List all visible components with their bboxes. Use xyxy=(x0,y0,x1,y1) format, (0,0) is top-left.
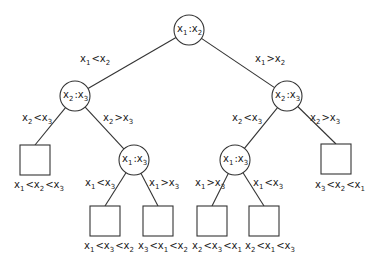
edge-label: x1 <x3 xyxy=(253,177,284,191)
edge-label: x1 >x2 xyxy=(255,53,286,67)
leaf-leaf2: x1 <x3 <x2 xyxy=(84,206,135,254)
leaf-box xyxy=(90,206,120,236)
edge-label: x2 <x3 xyxy=(22,112,53,126)
comparison-node-RL: x1 :x3 xyxy=(220,145,250,175)
leaf-label: x3 <x2 <x1 xyxy=(315,179,366,193)
edge-label: x1 <x3 xyxy=(85,177,116,191)
leaf-leaf5: x2 <x1 <x3 xyxy=(245,206,296,254)
leaf-box xyxy=(249,206,279,236)
edge-label: x2 >x3 xyxy=(103,112,134,126)
leaf-box xyxy=(20,145,50,175)
leaf-label: x2 <x1 <x3 xyxy=(245,240,296,254)
edge-label: x1 >x3 xyxy=(195,177,226,191)
leaf-box xyxy=(197,206,227,236)
leaf-nodes: x1 <x2 <x3 x1 <x3 <x2 x3 <x1 <x2 x2 <x3 … xyxy=(14,144,366,254)
leaf-label: x2 <x3 <x1 xyxy=(192,240,243,254)
comparison-node-L: x2 :x3 xyxy=(60,81,90,111)
leaf-label: x1 <x3 <x2 xyxy=(84,240,135,254)
edge-label: x2 >x3 xyxy=(310,112,341,126)
comparison-nodes: x1 :x2 x2 :x3 x2 :x3 x1 :x3 x1 :x3 xyxy=(60,15,302,175)
comparison-node-R: x2 :x3 xyxy=(272,81,302,111)
leaf-box xyxy=(143,206,173,236)
leaf-box xyxy=(321,144,351,174)
comparison-node-LR: x1 :x3 xyxy=(119,145,149,175)
decision-tree-diagram: x1 :x2 x2 :x3 x2 :x3 x1 :x3 x1 :x3 x1 <x… xyxy=(0,0,368,268)
labels: x1 <x2 x1 >x2 x2 <x3 x2 >x3 x2 <x3 x2 >x… xyxy=(22,53,341,191)
leaf-label: x1 <x2 <x3 xyxy=(14,179,65,193)
edge-label: x1 >x3 xyxy=(149,177,180,191)
leaf-leaf3: x3 <x1 <x2 xyxy=(138,206,189,254)
leaf-leaf1: x1 <x2 <x3 xyxy=(14,145,65,193)
leaf-label: x3 <x1 <x2 xyxy=(138,240,189,254)
leaf-leaf4: x2 <x3 <x1 xyxy=(192,206,243,254)
edge-label: x2 <x3 xyxy=(232,112,263,126)
comparison-node-root: x1 :x2 xyxy=(174,15,204,45)
edge-label: x1 <x2 xyxy=(80,53,111,67)
leaf-leaf6: x3 <x2 <x1 xyxy=(315,144,366,193)
